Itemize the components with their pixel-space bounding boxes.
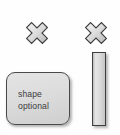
- vertical-bar-shape[interactable]: [92, 52, 106, 126]
- diagram-canvas: shape optional: [0, 0, 120, 135]
- cross-icon-left: [25, 21, 49, 45]
- rounded-shape-box[interactable]: shape optional: [6, 72, 70, 125]
- cross-icon-right: [84, 21, 108, 45]
- shape-box-label: shape optional: [18, 89, 49, 112]
